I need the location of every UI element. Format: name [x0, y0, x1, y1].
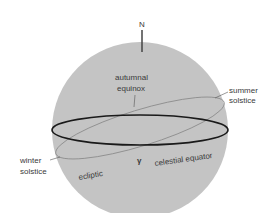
celestial-sphere-diagram: N autumnal equinox summer solstice winte… — [0, 0, 280, 213]
autumnal-label-2: equinox — [117, 84, 145, 93]
summer-label-2: solstice — [229, 96, 256, 105]
celestial-sphere — [52, 42, 228, 213]
vernal-equinox-symbol: γ — [137, 156, 142, 165]
winter-label-2: solstice — [20, 167, 47, 176]
autumnal-label-1: autumnal — [115, 73, 148, 82]
north-label: N — [139, 20, 145, 29]
summer-label-1: summer — [229, 86, 258, 95]
winter-label-1: winter — [19, 156, 42, 165]
